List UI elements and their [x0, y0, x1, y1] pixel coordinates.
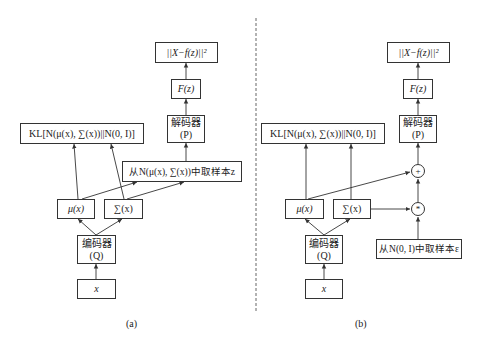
decoder-label: 解码器	[171, 117, 201, 129]
encoder-box-a: 编码器 (Q)	[77, 235, 116, 264]
mu-box-b: μ(x)	[285, 199, 324, 219]
arrow-encoder-to-sigma-a	[96, 219, 122, 235]
caption-b: (b)	[355, 318, 367, 329]
loss-box-b: ||X−f(z)||²	[387, 42, 450, 63]
decoder-sub: (P)	[180, 129, 192, 141]
sigma-box-a: ∑(x)	[104, 199, 143, 219]
decoder-box-a: 解码器 (P)	[167, 115, 205, 143]
kl-box-b: KL[N(μ(x), ∑(x))||N(0, I)]	[261, 123, 385, 144]
fz-box-b: F(z)	[403, 79, 433, 99]
caption-a: (a)	[126, 318, 137, 329]
arrow-mu-to-plus-b	[308, 172, 410, 199]
encoder-sub: (Q)	[90, 250, 104, 262]
kl-box-a: KL[N(μ(x), ∑(x))||N(0, I)]	[20, 123, 144, 144]
loss-box-a: ||X−f(z)||²	[155, 42, 218, 63]
input-box-a: x	[77, 279, 116, 299]
arrow-sigma-to-sample-a	[127, 182, 184, 199]
arrow-encoder-to-mu-a	[78, 219, 96, 235]
arrow-mu-to-sample-a	[82, 182, 137, 199]
sample-box-a: 从N(μ(x), ∑(x))中取样本z	[122, 161, 242, 182]
arrow-mu-to-kl-a	[74, 144, 78, 199]
mu-box-a: μ(x)	[57, 199, 95, 219]
input-box-b: x	[305, 279, 343, 299]
encoder-sub: (Q)	[317, 250, 331, 262]
arrow-encoder-to-mu-b	[305, 219, 324, 235]
decoder-sub: (P)	[412, 129, 424, 141]
encoder-label: 编码器	[309, 238, 339, 250]
decoder-label: 解码器	[403, 117, 433, 129]
fz-box-a: F(z)	[171, 79, 201, 99]
sigma-box-b: ∑(x)	[333, 199, 371, 219]
arrow-encoder-to-sigma-b	[324, 219, 350, 235]
encoder-label: 编码器	[82, 238, 112, 250]
encoder-box-b: 编码器 (Q)	[305, 235, 343, 264]
decoder-box-b: 解码器 (P)	[399, 115, 437, 143]
multiply-node-b: *	[411, 202, 425, 216]
noise-sample-box-b: 从N(0, I)中取样本ε	[376, 239, 462, 259]
plus-node-b: +	[411, 164, 425, 178]
